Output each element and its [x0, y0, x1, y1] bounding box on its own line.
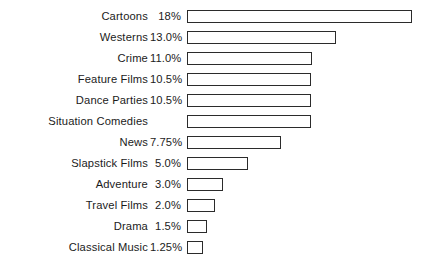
bar: [187, 115, 311, 128]
bar: [187, 52, 312, 65]
bar: [187, 241, 203, 254]
category-label: Situation Comedies: [0, 115, 148, 128]
bar-track: [187, 90, 311, 111]
bar-track: [187, 27, 336, 48]
bar: [187, 136, 281, 149]
chart-row: Dance Parties10.5%: [0, 90, 430, 111]
chart-row-list: Cartoons18%Westerns13.0%Crime11.0%Featur…: [0, 0, 430, 269]
category-label: Drama: [0, 220, 148, 233]
value-label: 3.0%: [150, 178, 181, 191]
category-label: Cartoons: [0, 10, 148, 23]
category-label: Feature Films: [0, 73, 148, 86]
value-label: 13.0%: [150, 31, 181, 44]
chart-row: Feature Films10.5%: [0, 69, 430, 90]
value-label: 1.5%: [150, 220, 181, 233]
bar: [187, 178, 223, 191]
chart-row: News7.75%: [0, 132, 430, 153]
bar-track: [187, 6, 412, 27]
bar: [187, 220, 207, 233]
category-label: News: [0, 136, 148, 149]
bar-track: [187, 132, 281, 153]
chart-row: Adventure3.0%: [0, 174, 430, 195]
value-label: 10.5%: [150, 73, 181, 86]
value-label: 1.25%: [150, 241, 181, 254]
bar: [187, 10, 412, 23]
value-label: 10.5%: [150, 94, 181, 107]
bar: [187, 94, 311, 107]
chart-row: Classical Music1.25%: [0, 237, 430, 258]
bar: [187, 157, 248, 170]
bar-track: [187, 195, 215, 216]
chart-row: Westerns13.0%: [0, 27, 430, 48]
category-label: Slapstick Films: [0, 157, 148, 170]
chart-row: Travel Films2.0%: [0, 195, 430, 216]
bar: [187, 31, 336, 44]
category-label: Crime: [0, 52, 148, 65]
value-label: 2.0%: [150, 199, 181, 212]
value-label: 18%: [150, 10, 181, 23]
bar: [187, 199, 215, 212]
bar-track: [187, 237, 203, 258]
category-label: Classical Music: [0, 241, 148, 254]
category-label: Dance Parties: [0, 94, 148, 107]
category-label: Adventure: [0, 178, 148, 191]
value-label: 7.75%: [150, 136, 181, 149]
category-label: Westerns: [0, 31, 148, 44]
bar-track: [187, 216, 207, 237]
category-label: Travel Films: [0, 199, 148, 212]
chart-row: Drama1.5%: [0, 216, 430, 237]
horizontal-bar-chart: Cartoons18%Westerns13.0%Crime11.0%Featur…: [0, 0, 430, 269]
bar: [187, 73, 311, 86]
chart-row: Slapstick Films5.0%: [0, 153, 430, 174]
bar-track: [187, 111, 311, 132]
bar-track: [187, 153, 248, 174]
value-label: 11.0%: [150, 52, 181, 65]
bar-track: [187, 174, 223, 195]
chart-row: Situation Comedies: [0, 111, 430, 132]
bar-track: [187, 69, 311, 90]
value-label: 5.0%: [150, 157, 181, 170]
bar-track: [187, 48, 312, 69]
chart-row: Crime11.0%: [0, 48, 430, 69]
chart-row: Cartoons18%: [0, 6, 430, 27]
